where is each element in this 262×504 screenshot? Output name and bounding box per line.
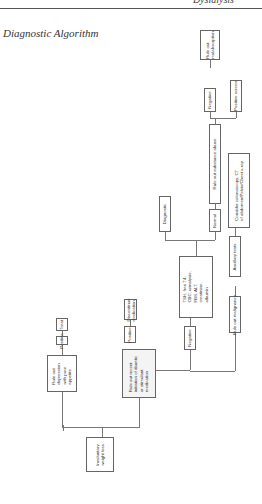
node-treat: Treat: [56, 318, 68, 331]
connector: [102, 427, 103, 437]
connector: [235, 333, 236, 371]
node-rule-out-depression: Rule out depression with poor appetite: [47, 355, 77, 392]
node-normal: Normal: [209, 209, 221, 232]
header-rule: [0, 8, 262, 9]
connector: [190, 318, 191, 326]
node-consider-imaging: Consider colonoscopy, CT of abdomen/Pelv…: [228, 153, 250, 228]
node-diagnostic: Diagnostic: [159, 196, 171, 232]
connector: [63, 428, 64, 431]
node-lab-tests: TSH, free T4, CBC, urinalysis, FBS, ALT,…: [179, 256, 213, 318]
node-rule-out-diuretic: Rule out recent initiation of diuretic o…: [122, 349, 156, 398]
node-positive-screen: Positive screen: [230, 80, 242, 112]
connector: [210, 60, 211, 68]
connector: [196, 240, 197, 256]
connector: [210, 118, 236, 119]
node-negative-substance: Negative: [204, 88, 216, 112]
section-title: Diagnostic Algorithm: [3, 27, 98, 39]
connector: [62, 392, 63, 428]
node-involuntary-weight-loss: Involuntary weight loss: [86, 437, 114, 472]
connector: [215, 232, 216, 240]
connector: [63, 427, 140, 428]
connector: [236, 112, 237, 118]
connector: [165, 240, 215, 241]
node-positive-diuretic: Positive: [124, 326, 136, 343]
connector: [190, 371, 235, 372]
connector: [139, 398, 140, 428]
node-positive-depression: Positive: [56, 336, 68, 345]
connector: [63, 425, 64, 428]
connector: [235, 228, 236, 236]
connector: [210, 112, 211, 118]
node-rule-out-malignancy: Rule out malignancy: [229, 296, 241, 333]
running-head: Dyslalysis: [193, 0, 234, 5]
node-discontinue-medication: Discontinue medication: [124, 299, 137, 320]
node-negative-diuretic: Negative: [184, 326, 196, 350]
node-rule-out-malabsorption: Rule out malabsorption: [200, 30, 220, 60]
connector: [165, 232, 166, 240]
connector: [190, 350, 191, 370]
node-rule-out-substance-abuse: Rule out substance abuse: [209, 124, 221, 204]
node-ancillary-tests: Ancillary tests: [229, 236, 241, 277]
